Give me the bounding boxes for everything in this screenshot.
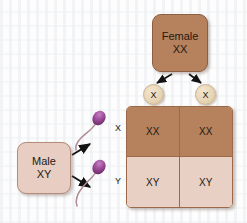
punnett-cell-row2-col1-text: XY xyxy=(146,177,159,188)
sperm-x-icon xyxy=(76,108,109,150)
punnett-row-label-y: Y xyxy=(112,176,124,186)
punnett-cell-row2-col2[interactable]: XY xyxy=(180,157,233,207)
egg-gamete-x-left[interactable]: X xyxy=(143,84,164,105)
punnett-cell-row1-col2-text: XX xyxy=(199,126,212,137)
sex-determination-diagram: Female XX Male XY X X X Y XX XX XY XY xyxy=(0,0,247,223)
punnett-cell-row1-col1-text: XX xyxy=(146,126,159,137)
punnett-cell-row1-col1[interactable]: XX xyxy=(127,107,180,157)
male-parent-label: Male xyxy=(32,155,56,168)
female-parent-label: Female xyxy=(162,30,199,43)
egg-gamete-x-right-label: X xyxy=(202,90,208,100)
punnett-cell-row2-col2-text: XY xyxy=(199,177,212,188)
egg-gamete-x-left-label: X xyxy=(150,90,156,100)
punnett-row-label-x: X xyxy=(112,123,124,133)
female-parent-genotype: XX xyxy=(173,43,188,56)
female-parent-box[interactable]: Female XX xyxy=(152,14,208,72)
punnett-square: XX XX XY XY xyxy=(126,106,233,208)
male-parent-box[interactable]: Male XY xyxy=(17,142,71,194)
punnett-cell-row2-col1[interactable]: XY xyxy=(127,157,180,207)
punnett-cell-row1-col2[interactable]: XX xyxy=(180,107,233,157)
male-parent-genotype: XY xyxy=(37,168,52,181)
egg-gamete-x-right[interactable]: X xyxy=(195,84,216,105)
sperm-y-icon xyxy=(76,157,108,206)
